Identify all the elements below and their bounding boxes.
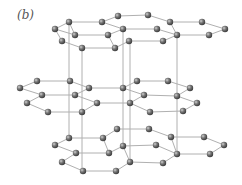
carbon-atom	[174, 32, 180, 38]
carbon-atom	[120, 26, 126, 32]
carbon-atom	[134, 78, 140, 84]
carbon-atom	[105, 32, 111, 38]
carbon-atom	[113, 168, 119, 174]
carbon-atom	[167, 19, 173, 25]
carbon-atom	[222, 26, 228, 32]
carbon-atom	[221, 142, 227, 148]
carbon-atom	[79, 109, 85, 115]
carbon-atom	[194, 100, 200, 106]
carbon-atom	[94, 100, 100, 106]
carbon-atom	[120, 143, 126, 149]
carbon-atom	[106, 150, 112, 156]
carbon-atom	[147, 109, 153, 115]
carbon-atom	[168, 134, 174, 140]
carbon-atom	[120, 85, 126, 91]
carbon-atom	[100, 135, 106, 141]
carbon-atom	[174, 151, 180, 157]
carbon-atom	[72, 92, 78, 98]
bond-line	[130, 103, 150, 112]
carbon-atom	[66, 19, 72, 25]
carbon-atom	[52, 142, 58, 148]
bond-line	[202, 22, 225, 29]
carbon-atom	[141, 92, 147, 98]
carbon-atom	[79, 45, 85, 51]
carbon-atom	[112, 45, 118, 51]
carbon-atom	[145, 12, 151, 18]
carbon-atom	[165, 78, 171, 84]
carbon-atom	[199, 19, 205, 25]
carbon-atom	[59, 159, 65, 165]
bond-line	[102, 22, 123, 29]
bond-line	[148, 15, 170, 22]
bond-line	[75, 95, 97, 103]
carbon-atom	[114, 126, 120, 132]
carbon-atom	[72, 32, 78, 38]
carbon-atom	[67, 78, 73, 84]
carbon-atom	[146, 126, 152, 132]
bond-line	[168, 81, 190, 88]
bond-line	[123, 88, 144, 95]
carbon-atom	[174, 93, 180, 99]
carbon-atom	[80, 168, 86, 174]
carbon-atom	[160, 160, 166, 166]
carbon-atom	[24, 100, 30, 106]
bond-line	[27, 103, 48, 112]
bond-line	[130, 162, 163, 163]
carbon-atom	[187, 85, 193, 91]
carbon-atom	[127, 100, 133, 106]
bond-line	[204, 137, 224, 145]
carbon-atom	[180, 108, 186, 114]
lattice-diagram	[0, 0, 242, 185]
carbon-atom	[86, 85, 92, 91]
bond-line	[62, 162, 83, 171]
bond-line	[20, 88, 42, 95]
figure-label: (b)	[17, 8, 34, 22]
graphite-structure-figure: (b)	[0, 0, 242, 185]
carbon-atom	[154, 26, 160, 32]
carbon-atom	[17, 85, 23, 91]
carbon-atom	[52, 26, 58, 32]
bond-line	[55, 145, 76, 153]
carbon-atom	[34, 78, 40, 84]
carbon-atom	[201, 134, 207, 140]
carbon-atom	[99, 19, 105, 25]
carbon-atom	[39, 92, 45, 98]
carbon-atom	[160, 38, 166, 44]
bond-line	[150, 111, 183, 112]
carbon-atom	[45, 109, 51, 115]
bond-line	[118, 15, 148, 16]
carbon-atom	[127, 159, 133, 165]
carbon-atom	[206, 32, 212, 38]
carbon-atom	[59, 38, 65, 44]
bond-line	[123, 145, 156, 146]
bond-line	[144, 95, 177, 96]
carbon-atom	[207, 151, 213, 157]
bond-line	[149, 129, 171, 137]
carbon-atom	[126, 38, 132, 44]
carbon-atom	[115, 13, 121, 19]
carbon-atom	[153, 142, 159, 148]
carbon-atom	[73, 150, 79, 156]
carbon-atom	[66, 135, 72, 141]
